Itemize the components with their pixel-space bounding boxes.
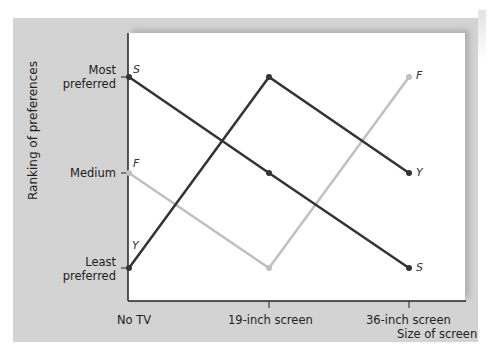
y-label-least-line2: preferred — [60, 269, 116, 283]
series-f-point — [126, 170, 132, 176]
y-label-least: Least preferred — [60, 255, 116, 283]
chart-lines — [0, 0, 490, 364]
series-f-point — [406, 74, 412, 80]
series-s-point — [266, 170, 272, 176]
series-s-start-label: S — [133, 63, 140, 76]
series-f-end-label: F — [416, 69, 422, 82]
x-axis-title: Size of screen — [397, 327, 477, 341]
y-axis-title: Ranking of preferences — [26, 61, 40, 200]
series-s-point — [126, 74, 132, 80]
x-label-no-tv: No TV — [117, 313, 151, 327]
series-s-point — [406, 265, 412, 271]
y-label-medium: Medium — [60, 166, 116, 180]
y-label-least-line1: Least — [60, 255, 116, 269]
series-y-point — [126, 265, 132, 271]
series-y-start-label: Y — [132, 239, 139, 252]
series-f-start-label: F — [133, 157, 139, 170]
series-f-point — [266, 265, 272, 271]
y-label-most-line2: preferred — [60, 77, 116, 91]
x-label-19-inch: 19-inch screen — [228, 313, 313, 327]
y-label-most-line1: Most — [60, 63, 116, 77]
series-y-point — [406, 170, 412, 176]
series-s-end-label: S — [416, 261, 423, 274]
series-y-point — [266, 74, 272, 80]
x-label-36-inch: 36-inch screen — [366, 313, 451, 327]
series-y-end-label: Y — [416, 166, 423, 179]
y-label-most: Most preferred — [60, 63, 116, 91]
